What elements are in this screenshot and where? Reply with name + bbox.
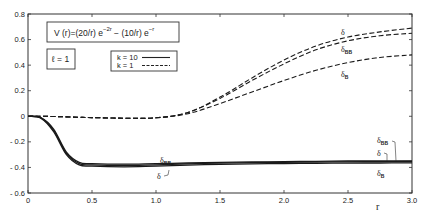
annotation-text: ℓ = 1 [51,54,69,64]
series-line [28,116,412,164]
series-line [28,116,412,167]
series-line [28,33,412,118]
y-tick-label: 0.4 [15,61,25,70]
formula-exp2: −r [149,26,155,32]
y-tick-label: 0.6 [15,35,25,44]
y-tick-label: 0 [21,112,25,121]
x-tick-label: 3.0 [407,196,417,205]
formula-middle: − (10/r) e [112,28,149,38]
y-tick-label: - 0.2 [10,137,25,146]
label-delta-mid: δ [157,172,161,181]
series-line [28,55,412,118]
formula-box: V (r)=(20/r) e−2r − (10/r) e−r [47,22,179,42]
x-tick-label: 0.5 [87,196,97,205]
y-axis-tick-labels: 0.80.60.40.20- 0.2- 0.4- 0.6 [10,10,25,198]
label-delta-b-upper: δB [341,70,349,80]
label-delta-right: δ [377,149,381,158]
x-tick-label: 2.0 [279,196,289,205]
x-tick-label: 1.0 [151,196,161,205]
curve-labels: δ δBB δB δBB δ δBB δ δB [157,28,396,181]
series-layer [28,28,412,167]
y-tick-label: 0.8 [15,10,25,19]
x-tick-label: 2.5 [343,196,353,205]
x-tick-label: 1.5 [215,196,225,205]
label-delta-bb-mid: δBB [160,156,171,166]
y-tick-label: - 0.4 [10,163,25,172]
y-tick-label: 0.2 [15,86,25,95]
legend-label-k1: k = 1 [117,61,133,70]
label-delta-upper: δ [341,28,345,37]
label-delta-bb-right: δBB [377,136,388,146]
x-axis-label: r [376,201,380,212]
legend: k = 10 k = 1 [111,51,177,71]
annotation-box: ℓ = 1 [47,49,75,69]
series-line [28,116,412,165]
label-delta-b-right: δB [377,169,385,179]
formula-exp1: −2r [103,26,112,32]
x-axis-tick-labels: 00.51.01.52.02.53.0 [26,196,417,205]
label-delta-bb-upper: δBB [341,45,352,55]
y-tick-label: - 0.6 [10,189,25,198]
formula-prefix: V (r)=(20/r) e [54,28,103,38]
chart: 0.80.60.40.20- 0.2- 0.4- 0.6 00.51.01.52… [0,0,428,217]
x-tick-label: 0 [26,196,30,205]
